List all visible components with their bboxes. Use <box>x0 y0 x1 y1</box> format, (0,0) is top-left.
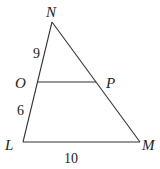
vertex-label-L: L <box>4 137 13 153</box>
triangle-diagram: N O P L M 9 6 10 <box>0 0 160 169</box>
measure-OL: 6 <box>17 103 24 118</box>
vertex-label-N: N <box>45 4 57 20</box>
vertex-label-P: P <box>105 75 115 91</box>
measure-NO: 9 <box>33 46 40 61</box>
vertex-label-M: M <box>141 137 156 153</box>
vertex-label-O: O <box>15 75 26 91</box>
measure-LM: 10 <box>64 151 78 166</box>
